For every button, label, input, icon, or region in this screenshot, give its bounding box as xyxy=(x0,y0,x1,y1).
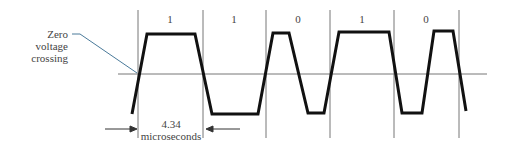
duration-label: 4.34 microseconds xyxy=(140,118,202,142)
bit-label: 1 xyxy=(160,13,180,25)
bit-label: 1 xyxy=(352,13,372,25)
bit-label: 0 xyxy=(416,13,436,25)
bit-label: 0 xyxy=(288,13,308,25)
duration-unit: microseconds xyxy=(140,130,202,142)
zero-crossing-label: Zero voltage crossing xyxy=(20,28,68,64)
leader-line xyxy=(72,34,137,73)
bit-label: 1 xyxy=(224,13,244,25)
waveform-diagram: Zero voltage crossing 4.34 microseconds … xyxy=(0,0,506,148)
duration-value: 4.34 xyxy=(140,118,202,130)
label-line-2: crossing xyxy=(20,52,68,64)
waveform-trace xyxy=(132,31,466,114)
label-line-1: Zero voltage xyxy=(20,28,68,52)
